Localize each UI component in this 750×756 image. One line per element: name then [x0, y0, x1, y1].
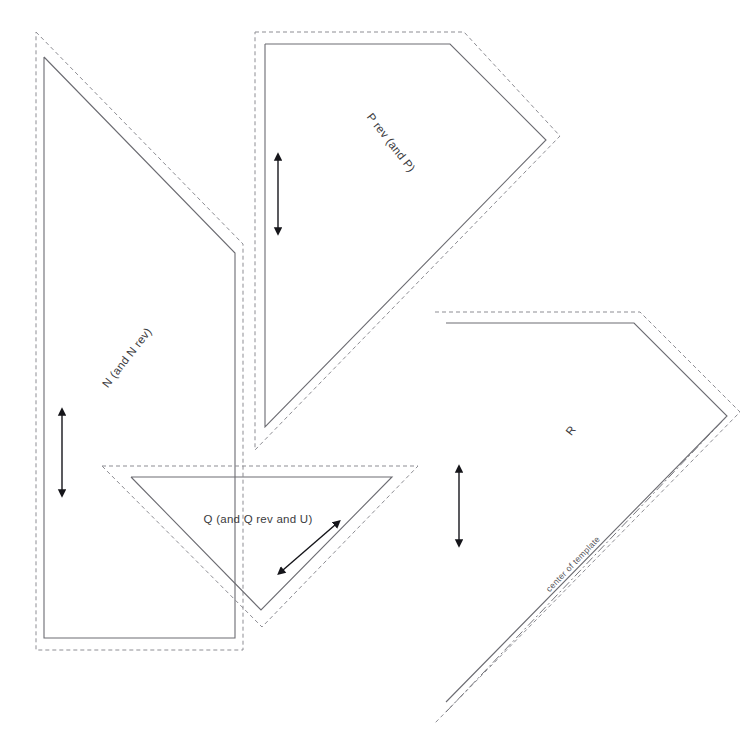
piece-p-cut-line	[255, 32, 560, 450]
piece-r-cut-line	[435, 312, 740, 723]
pattern-diagram: N (and N rev) P rev (and P) Q (and Q rev…	[0, 0, 750, 756]
piece-p-sew-line	[265, 44, 546, 427]
piece-p-group: P rev (and P)	[255, 32, 560, 450]
piece-q-grain-arrow	[283, 525, 335, 570]
piece-n-label: N (and N rev)	[100, 325, 154, 389]
pattern-svg: N (and N rev) P rev (and P) Q (and Q rev…	[0, 0, 750, 756]
center-of-template-label: center of template	[544, 534, 602, 594]
piece-q-group: Q (and Q rev and U)	[102, 466, 418, 627]
piece-q-label: Q (and Q rev and U)	[204, 513, 313, 525]
center-of-template-line	[446, 416, 727, 712]
piece-q-cut-line	[102, 466, 418, 627]
piece-r-label: R	[563, 423, 578, 437]
piece-n-group: N (and N rev)	[36, 32, 243, 650]
piece-p-label: P rev (and P)	[365, 111, 418, 174]
piece-r-group: R center of template	[435, 312, 740, 723]
piece-q-sew-line	[131, 477, 392, 610]
piece-r-sew-line	[446, 323, 727, 702]
